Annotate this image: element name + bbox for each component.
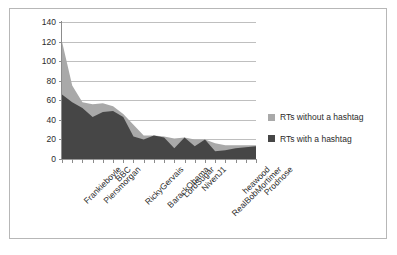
legend-swatch-icon — [268, 135, 275, 142]
y-axis-label-120: 120 — [42, 37, 56, 46]
x-tick-12 — [185, 159, 186, 163]
y-axis-label-20: 20 — [47, 135, 56, 144]
y-axis-label-0: 0 — [51, 155, 56, 164]
chart-canvas: 020406080100120140 FrankieboylePiersmorg… — [10, 9, 386, 238]
stacked-area-series — [62, 22, 256, 159]
y-axis-label-140: 140 — [42, 18, 56, 27]
x-tick-4 — [103, 159, 104, 163]
legend-label: RTs without a hashtag — [280, 113, 363, 122]
y-axis-label-60: 60 — [47, 96, 56, 105]
x-tick-13 — [195, 159, 196, 163]
x-tick-3 — [93, 159, 94, 163]
legend-swatch-icon — [268, 114, 275, 121]
chart-legend: RTs without a hashtagRTs with a hashtag — [268, 113, 386, 156]
x-tick-17 — [236, 159, 237, 163]
x-tick-15 — [215, 159, 216, 163]
x-tick-14 — [205, 159, 206, 163]
x-tick-18 — [246, 159, 247, 163]
legend-item-1[interactable]: RTs with a hashtag — [268, 135, 386, 144]
y-axis-label-80: 80 — [47, 76, 56, 85]
y-axis-label-100: 100 — [42, 57, 56, 66]
x-tick-10 — [164, 159, 165, 163]
x-tick-8 — [144, 159, 145, 163]
x-tick-7 — [133, 159, 134, 163]
x-axis-labels: FrankieboylePiersmorganBBCRickyGervaisBa… — [62, 165, 256, 235]
x-tick-19 — [256, 159, 257, 163]
x-tick-2 — [82, 159, 83, 163]
legend-item-0[interactable]: RTs without a hashtag — [268, 113, 386, 122]
x-tick-1 — [72, 159, 73, 163]
x-tick-9 — [154, 159, 155, 163]
y-axis-label-40: 40 — [47, 116, 56, 125]
x-tick-0 — [62, 159, 63, 163]
plot-area: 020406080100120140 — [62, 22, 256, 159]
legend-label: RTs with a hashtag — [280, 135, 352, 144]
x-tick-6 — [123, 159, 124, 163]
chart-frame: 020406080100120140 FrankieboylePiersmorg… — [9, 8, 387, 239]
x-tick-5 — [113, 159, 114, 163]
x-tick-16 — [225, 159, 226, 163]
x-tick-11 — [174, 159, 175, 163]
